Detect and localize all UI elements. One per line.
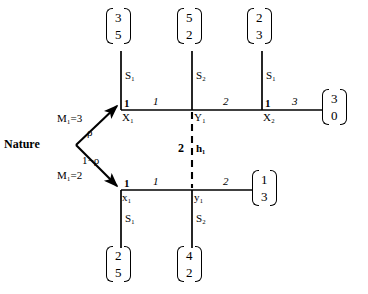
bracket-right <box>340 89 347 125</box>
strategy-label-text: S₁ <box>266 69 276 81</box>
bracket-left <box>106 8 113 44</box>
bracket-right <box>195 8 202 44</box>
action-label-bottom-1: 1 <box>153 176 159 187</box>
node-label-text: X₁ <box>122 111 134 123</box>
strategy-label-top-X1: S₁ <box>125 70 135 81</box>
bracket-left <box>247 8 254 44</box>
node-label-text: x₁ <box>122 191 131 203</box>
payoff-top-terminal: 3 0 <box>322 89 347 125</box>
node-label-text: y₁ <box>194 191 203 203</box>
payoff-bottom-S2-y1: 4 2 <box>177 246 202 282</box>
payoff-player2-value: 2 <box>186 264 193 281</box>
strategy-label-bottom-x1: S₁ <box>125 213 135 224</box>
bracket-right <box>124 8 131 44</box>
payoff-player1-value: 5 <box>186 9 193 26</box>
payoff-player1-value: 1 <box>261 171 268 188</box>
node-label-Y1: Y₁ <box>194 112 206 123</box>
node-label-y1: y₁ <box>194 192 203 203</box>
node-player-x1: 1 <box>124 178 130 189</box>
action-label-text: 3 <box>292 95 298 107</box>
nature-probability-text: 1−ρ <box>82 154 99 166</box>
nature-move-label-bottom: M₁=2 <box>57 170 82 181</box>
strategy-label-text: S₂ <box>196 212 206 224</box>
payoff-player2-value: 5 <box>115 264 122 281</box>
nature-probability-text: ρ <box>87 126 93 138</box>
nature-move-text: M₁=3 <box>57 112 82 124</box>
payoff-player2-value: 3 <box>261 188 268 205</box>
node-label-text: X₂ <box>263 111 275 123</box>
payoff-player1-value: 2 <box>115 247 122 264</box>
node-player-X2: 1 <box>265 98 271 109</box>
action-label-top-1: 1 <box>153 96 159 107</box>
strategy-label-top-Y1: S₂ <box>196 70 206 81</box>
payoff-bottom-terminal: 1 3 <box>252 170 277 206</box>
game-tree-figure: 3 5 5 2 2 3 3 0 S₁ S₂ S₁ <box>0 0 368 294</box>
node-label-X2: X₂ <box>263 112 275 123</box>
node-player-text: 1 <box>124 97 130 109</box>
node-label-text: Y₁ <box>194 111 206 123</box>
bracket-left <box>106 246 113 282</box>
node-player-X1: 1 <box>124 98 130 109</box>
node-player-text: 1 <box>265 97 271 109</box>
nature-node-label: Nature <box>4 138 40 150</box>
information-set-name-label: h₁ <box>196 143 205 154</box>
payoff-player1-value: 2 <box>256 9 263 26</box>
strategy-label-text: S₁ <box>125 69 135 81</box>
payoff-player1-value: 3 <box>331 90 338 107</box>
nature-move-text: M₁=2 <box>57 169 82 181</box>
payoff-player2-value: 0 <box>331 107 338 124</box>
payoff-top-S1-X1: 3 5 <box>106 8 131 44</box>
information-set-name-text: h₁ <box>196 142 205 154</box>
payoff-player1-value: 4 <box>186 247 193 264</box>
nature-probability-label-top: ρ <box>87 127 93 138</box>
action-label-text: 1 <box>153 95 159 107</box>
payoff-player2-value: 5 <box>115 26 122 43</box>
payoff-player1-value: 3 <box>115 9 122 26</box>
action-label-bottom-2: 2 <box>223 176 229 187</box>
strategy-label-text: S₁ <box>125 212 135 224</box>
nature-move-label-top: M₁=3 <box>57 113 82 124</box>
payoff-player2-value: 3 <box>256 26 263 43</box>
bracket-left <box>177 8 184 44</box>
payoff-player2-value: 2 <box>186 26 193 43</box>
bracket-right <box>270 170 277 206</box>
payoff-top-S1-X2: 2 3 <box>247 8 272 44</box>
action-label-top-2: 2 <box>223 96 229 107</box>
bracket-left <box>252 170 259 206</box>
bracket-left <box>322 89 329 125</box>
action-label-top-3: 3 <box>292 96 298 107</box>
strategy-label-bottom-y1: S₂ <box>196 213 206 224</box>
action-label-text: 2 <box>223 95 229 107</box>
node-player-text: 1 <box>124 177 130 189</box>
payoff-top-S2-Y1: 5 2 <box>177 8 202 44</box>
bracket-right <box>195 246 202 282</box>
action-label-text: 1 <box>153 175 159 187</box>
nature-label-text: Nature <box>4 137 40 151</box>
nature-probability-label-bottom: 1−ρ <box>82 155 99 166</box>
bracket-right <box>265 8 272 44</box>
payoff-bottom-S1-x1: 2 5 <box>106 246 131 282</box>
information-set-player-text: 2 <box>178 141 184 155</box>
strategy-label-text: S₂ <box>196 69 206 81</box>
action-label-text: 2 <box>223 175 229 187</box>
information-set-player-label: 2 <box>178 142 184 154</box>
bracket-left <box>177 246 184 282</box>
strategy-label-top-X2: S₁ <box>266 70 276 81</box>
bracket-right <box>124 246 131 282</box>
node-label-x1: x₁ <box>122 192 131 203</box>
node-label-X1: X₁ <box>122 112 134 123</box>
